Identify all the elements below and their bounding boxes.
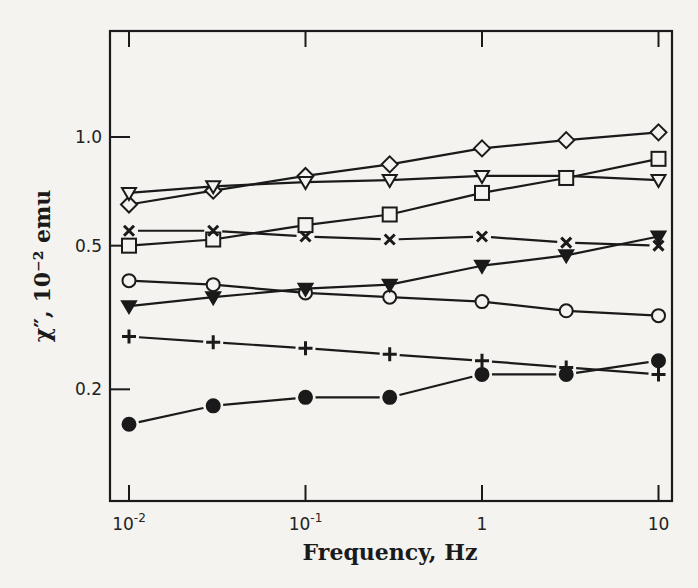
series-segment — [390, 266, 482, 285]
circle-open-marker — [123, 274, 136, 287]
series-segment — [399, 377, 472, 395]
series-plus — [122, 330, 666, 382]
series-segment — [306, 293, 390, 297]
triangle-down-open-marker — [122, 188, 136, 200]
series-segment — [482, 255, 566, 265]
series-segment — [223, 343, 295, 348]
square-marker — [475, 186, 489, 200]
square-marker — [559, 171, 573, 185]
circle-filled-marker — [383, 391, 396, 404]
circle-open-marker — [476, 295, 489, 308]
circle-filled-marker — [207, 399, 220, 412]
series-segment — [482, 302, 566, 311]
triangle-down-open-marker — [652, 175, 666, 187]
y-axis-title: χ″, 10⁻² emu — [29, 190, 55, 342]
series-open-diamond — [121, 124, 667, 212]
series-segment — [566, 159, 658, 178]
series-segment — [306, 180, 390, 182]
circle-open-marker — [207, 278, 220, 291]
series-segment — [213, 289, 305, 297]
y-axis-ticks: 1.00.50.2 — [75, 127, 130, 399]
plus-marker — [299, 341, 313, 355]
chart: 10-210-1110 1.00.50.2 Frequency, Hz χ″, … — [0, 0, 698, 588]
series-segment — [390, 148, 482, 164]
series-filled-circle — [123, 354, 666, 431]
series-segment — [482, 178, 566, 193]
plus-marker — [652, 367, 666, 381]
series-segment — [482, 140, 566, 148]
plot-frame — [110, 31, 672, 501]
series-segment — [139, 408, 204, 422]
triangle-down-filled-marker — [122, 301, 136, 313]
series-layer — [121, 124, 667, 430]
circle-filled-marker — [123, 418, 136, 431]
series-segment — [491, 237, 557, 242]
circle-filled-marker — [560, 368, 573, 381]
diamond-marker — [558, 132, 574, 148]
plus-marker — [475, 354, 489, 368]
diamond-marker — [474, 140, 490, 156]
series-segment — [129, 240, 213, 246]
series-segment — [492, 362, 556, 367]
series-segment — [314, 237, 380, 239]
series-segment — [390, 297, 482, 301]
cross-marker — [561, 238, 571, 248]
circle-open-marker — [652, 309, 665, 322]
cross-marker — [385, 235, 395, 245]
series-cross — [124, 226, 664, 251]
square-marker — [652, 152, 666, 166]
x-tick-label: 10 — [648, 514, 670, 534]
series-segment — [566, 176, 658, 180]
square-marker — [299, 218, 313, 232]
square-marker — [383, 207, 397, 221]
circle-filled-marker — [299, 391, 312, 404]
diamond-marker — [651, 124, 667, 140]
y-tick-label: 0.5 — [75, 236, 102, 256]
series-segment — [566, 132, 658, 140]
x-tick-label: 10-2 — [112, 511, 146, 534]
series-segment — [400, 355, 472, 360]
series-segment — [129, 281, 213, 285]
circle-open-marker — [560, 304, 573, 317]
cross-marker — [124, 226, 134, 236]
series-segment — [139, 337, 203, 341]
circle-filled-marker — [652, 354, 665, 367]
series-segment — [566, 311, 658, 316]
series-segment — [306, 214, 390, 225]
series-segment — [306, 285, 390, 289]
plus-marker — [383, 347, 397, 361]
x-tick-label: 1 — [477, 514, 488, 534]
series-segment — [390, 193, 482, 215]
x-axis-title: Frequency, Hz — [303, 539, 478, 565]
cross-marker — [477, 232, 487, 242]
series-segment — [223, 398, 295, 405]
series-segment — [390, 176, 482, 180]
series-segment — [399, 237, 473, 239]
diamond-marker — [382, 156, 398, 172]
plus-marker — [122, 330, 136, 344]
series-segment — [306, 164, 390, 176]
series-segment — [129, 297, 213, 306]
square-marker — [122, 239, 136, 253]
plus-marker — [206, 335, 220, 349]
y-tick-label: 1.0 — [75, 127, 102, 147]
circle-filled-marker — [476, 368, 489, 381]
x-tick-label: 10-1 — [289, 511, 323, 534]
series-segment — [315, 349, 379, 354]
series-segment — [213, 285, 305, 293]
y-tick-label: 0.2 — [75, 379, 102, 399]
